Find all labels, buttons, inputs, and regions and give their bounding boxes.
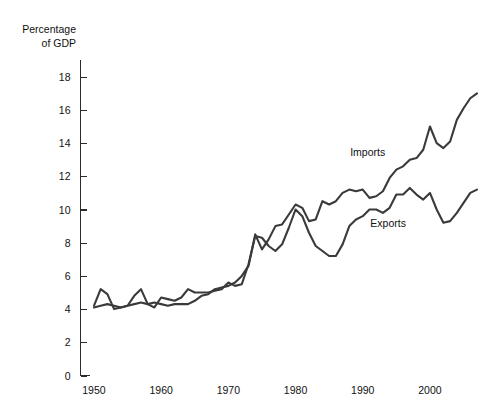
axes-group xyxy=(81,60,90,376)
series-line-imports xyxy=(94,93,477,307)
data-lines-group xyxy=(94,93,477,309)
chart-container: Percentage of GDP 024681012141618 195019… xyxy=(0,0,490,418)
plot-area xyxy=(0,0,490,418)
y-axis-spine xyxy=(81,60,90,375)
series-line-exports xyxy=(94,188,477,309)
